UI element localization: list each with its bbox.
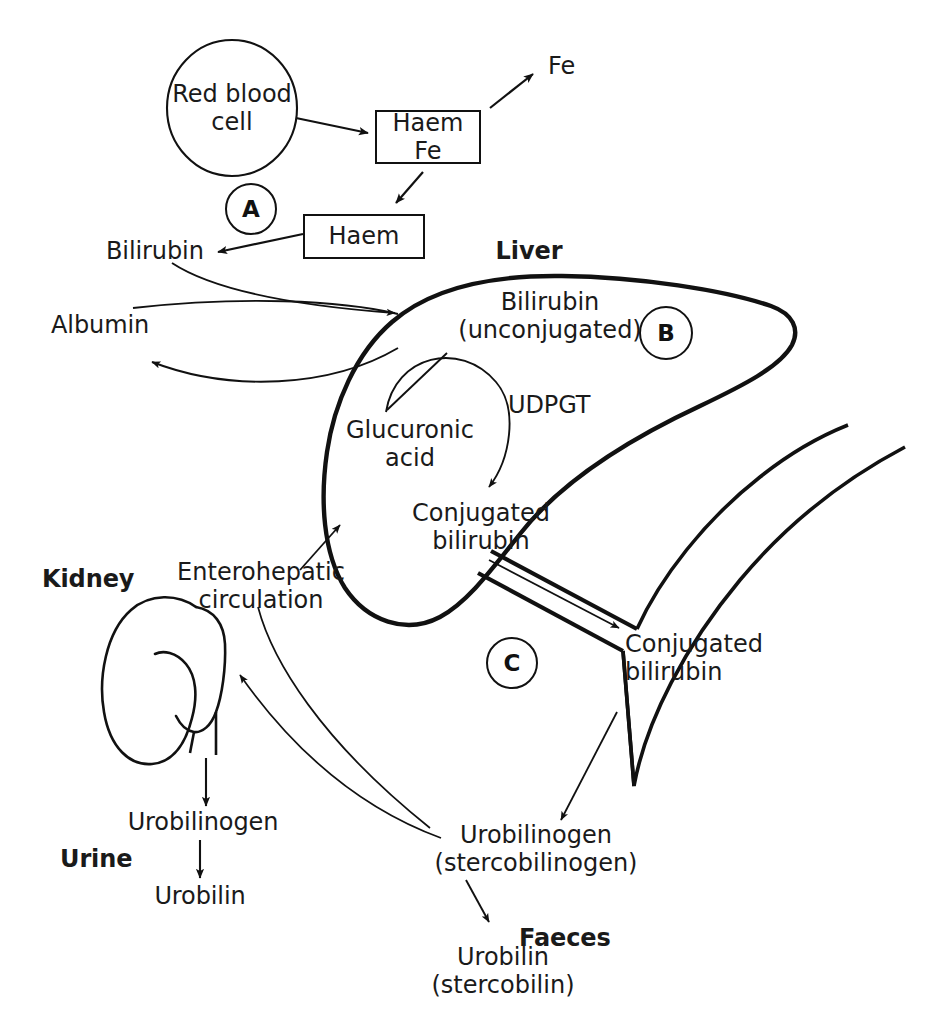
haem-fe-line2: Fe	[414, 137, 441, 165]
diagram-canvas: Red blood cell Haem Fe Fe Haem Bilirubin…	[0, 0, 950, 1032]
glucuronic-acid-label: Glucuronic acid	[330, 414, 490, 474]
liver-label: Liver	[496, 238, 563, 266]
glucuronic-acid-line1: Glucuronic	[346, 416, 474, 444]
marker-label-b: B	[644, 311, 688, 355]
bilirubin-unconj-line1: Bilirubin	[501, 288, 600, 316]
arrow-bile-flow	[489, 560, 619, 628]
arrow-haem-to-bilirubin	[218, 234, 303, 252]
arrow-rbc-to-haemfe	[296, 118, 368, 133]
conjugated-bilirubin-liver-label: Conjugated bilirubin	[396, 497, 566, 557]
conj-bili-gut-line2: bilirubin	[625, 658, 722, 686]
rbc-line2: cell	[211, 108, 252, 136]
urobilin-kidney-label: Urobilin	[154, 883, 245, 911]
arrow-haemfe-to-haem	[396, 172, 423, 203]
enterohepatic-line1: Enterohepatic	[177, 558, 345, 586]
urobilinogen-gut-line2: (stercobilinogen)	[435, 849, 638, 877]
conj-bili-liver-line1: Conjugated	[412, 499, 550, 527]
conj-bili-gut-line1: Conjugated	[625, 630, 763, 658]
urobilinogen-kidney-label: Urobilinogen	[128, 809, 279, 837]
haem-label: Haem	[304, 215, 424, 258]
kidney-outline	[102, 597, 196, 764]
haem-fe-label: Haem Fe	[376, 111, 480, 163]
conj-bili-liver-line2: bilirubin	[432, 527, 529, 555]
kidney-pelvis	[176, 607, 225, 732]
red-blood-cell-label: Red blood cell	[167, 78, 297, 138]
conjugated-bilirubin-gut-label: Conjugated bilirubin	[625, 628, 795, 688]
urobilin-gut-line2: (stercobilin)	[431, 971, 574, 999]
arrow-bilirubin-to-liver	[172, 263, 395, 313]
kidney-label: Kidney	[42, 566, 134, 594]
kidney-ureter-left	[190, 732, 194, 753]
bilirubin-unconj-line2: (unconjugated)	[458, 316, 641, 344]
urobilinogen-gut-label: Urobilinogen (stercobilinogen)	[436, 818, 636, 880]
glucuronic-acid-line2: acid	[385, 444, 435, 472]
arrow-conjugated-to-urobilinogen	[561, 712, 617, 820]
arrow-liver-to-albumin	[152, 348, 398, 382]
arrow-haemfe-to-fe	[490, 74, 533, 108]
arrow-enterohepatic-circulation	[258, 607, 430, 828]
bilirubin-unconjugated-label: Bilirubin (unconjugated)	[460, 286, 640, 346]
bilirubin-label: Bilirubin	[106, 238, 204, 266]
rbc-line1: Red blood	[172, 80, 292, 108]
urobilinogen-gut-line1: Urobilinogen	[460, 821, 612, 849]
fe-label: Fe	[548, 53, 575, 81]
urobilin-gut-label: Urobilin (stercobilin)	[413, 940, 593, 1002]
haem-fe-line1: Haem	[393, 109, 464, 137]
urine-label: Urine	[60, 846, 132, 874]
line-albumin-to-liver	[133, 301, 398, 314]
haem-text: Haem	[329, 222, 400, 250]
gut-wall-outer	[623, 447, 905, 786]
albumin-label: Albumin	[51, 312, 149, 340]
urobilin-gut-line1: Urobilin	[457, 943, 549, 971]
marker-label-a: A	[229, 187, 273, 231]
udpgt-label: UDPGT	[508, 392, 590, 420]
arrow-gut-urobilinogen-to-urobilin	[466, 880, 489, 922]
leader-glucuronic-acid	[387, 353, 447, 410]
enterohepatic-line2: circulation	[199, 586, 324, 614]
gut-wall-inner	[637, 425, 848, 629]
marker-label-c: C	[490, 641, 534, 685]
enterohepatic-circulation-label: Enterohepatic circulation	[176, 556, 346, 616]
